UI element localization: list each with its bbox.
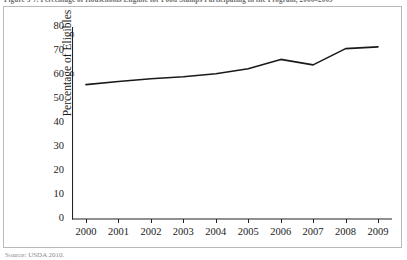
x-tick-label: 2002 [134,226,168,237]
y-tick-label: 20 [40,164,64,175]
figure-frame: Percentage of Eligibles 0102030405060708… [3,6,402,248]
x-tick-label: 2009 [361,226,395,237]
x-tick-label: 2000 [69,226,103,237]
x-tick-label: 2008 [329,226,363,237]
x-tick-label: 2001 [101,226,135,237]
y-tick-label: 50 [40,92,64,103]
chart-svg [72,23,392,235]
x-tick-label: 2003 [166,226,200,237]
y-tick-label: 10 [40,188,64,199]
y-tick-label: 30 [40,140,64,151]
axis-lines [73,27,393,219]
x-tick-label: 2007 [296,226,330,237]
y-tick-label: 80 [40,20,64,31]
axis-ticks [72,28,379,224]
y-tick-label: 0 [40,212,64,223]
x-tick-label: 2005 [231,226,265,237]
y-tick-label: 40 [40,116,64,127]
source-note: Source: USDA 2010. [5,251,205,260]
x-tick-label: 2006 [264,226,298,237]
data-series-line [86,47,378,85]
line-chart-plot-area [72,23,392,235]
x-tick-label: 2004 [199,226,233,237]
y-tick-label: 60 [40,68,64,79]
y-tick-label: 70 [40,44,64,55]
